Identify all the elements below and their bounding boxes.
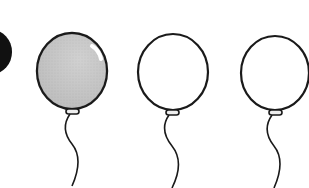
balloon-empty-1 — [138, 34, 208, 188]
balloon-canvas — [0, 0, 309, 188]
balloon-string — [267, 115, 280, 188]
balloon-string — [165, 115, 179, 188]
balloon-knot — [166, 110, 179, 115]
partial-black-circle-icon — [0, 30, 12, 74]
balloon-body — [138, 34, 208, 110]
balloon-string — [65, 114, 78, 186]
balloon-texture — [38, 34, 106, 108]
balloon-knot — [269, 110, 282, 115]
balloon-empty-2 — [241, 36, 309, 188]
balloon-knot — [66, 109, 79, 114]
balloon-illustration — [0, 0, 309, 188]
balloon-shaded — [37, 33, 107, 186]
balloon-body — [241, 36, 309, 110]
